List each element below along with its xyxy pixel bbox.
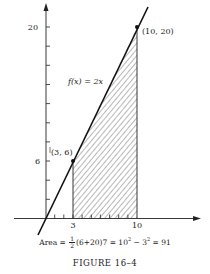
figure-canvas: 20 6 3 10 f(x) = 2x (3, 6) (10, 20) — [0, 0, 210, 274]
figure-caption: FIGURE 16–4 — [0, 258, 210, 268]
area-result: = 91 — [150, 238, 171, 247]
point-label-10-20: (10, 20) — [142, 27, 174, 36]
x-tick-label-3: 3 — [70, 221, 75, 230]
y-tick-label-20: 20 — [28, 23, 38, 32]
area-minus: − 3 — [131, 238, 147, 247]
y-axis-ticks — [46, 27, 50, 199]
one-half-fraction: 12 — [69, 236, 75, 249]
x-axis-arrow-icon — [193, 216, 201, 221]
y-tick-label-6: 6 — [35, 157, 40, 166]
function-label: f(x) = 2x — [67, 77, 104, 86]
y-axis-arrow-icon — [44, 3, 49, 11]
shaded-area-region — [73, 27, 137, 218]
area-middle: (6+20)7 = 10 — [76, 238, 128, 247]
x-tick-label-10: 10 — [132, 221, 142, 230]
area-prefix: Area = — [39, 238, 68, 247]
area-formula: Area = 12(6+20)7 = 102 − 32 = 91 — [0, 236, 210, 249]
point-10-20 — [135, 25, 139, 29]
fraction-denominator: 2 — [69, 243, 75, 249]
point-label-3-6: (3, 6) — [51, 148, 73, 157]
point-3-6 — [71, 159, 75, 163]
